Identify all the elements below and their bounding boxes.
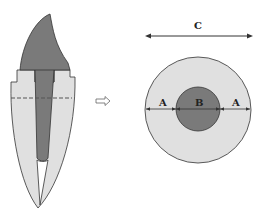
tooth-section bbox=[11, 14, 75, 208]
label-a-right: A bbox=[231, 97, 240, 108]
label-a-left: A bbox=[158, 97, 167, 108]
arrow-right-icon bbox=[96, 97, 110, 106]
label-b: B bbox=[195, 97, 203, 108]
label-c: C bbox=[194, 20, 202, 31]
cross-section: A B A bbox=[145, 57, 251, 163]
diagram-canvas: C A B A bbox=[0, 0, 260, 221]
dimension-c: C bbox=[145, 20, 253, 39]
